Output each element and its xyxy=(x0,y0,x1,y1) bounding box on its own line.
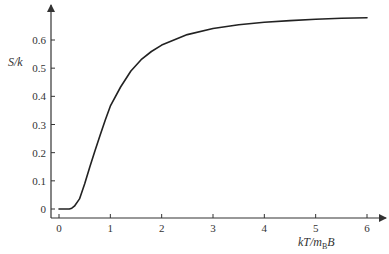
x-axis-label: kT/mBB xyxy=(298,235,335,251)
entropy-curve xyxy=(59,18,367,209)
y-tick-label: 0.3 xyxy=(32,119,46,131)
y-tick-label: 0.6 xyxy=(32,34,46,46)
x-tick-label: 6 xyxy=(364,222,370,234)
entropy-chart: 00.10.20.30.40.50.6 0123456 S/k kT/mBB xyxy=(0,0,389,254)
y-axis-label: S/k xyxy=(8,55,23,69)
y-tick-label: 0.2 xyxy=(32,147,46,159)
x-tick-label: 2 xyxy=(159,222,165,234)
y-tick-label: 0.1 xyxy=(32,175,46,187)
y-tick-label: 0.5 xyxy=(32,62,46,74)
x-tick-label: 5 xyxy=(313,222,319,234)
y-tick-label: 0 xyxy=(41,203,47,215)
x-tick-label: 4 xyxy=(262,222,268,234)
y-tick-label: 0.4 xyxy=(32,90,46,102)
x-tick-label: 1 xyxy=(108,222,114,234)
x-axis-label-post: B xyxy=(327,235,335,249)
x-tick-label: 3 xyxy=(210,222,216,234)
x-tick-label: 0 xyxy=(56,222,62,234)
x-axis-label-pre: kT/m xyxy=(298,235,322,249)
x-axis-ticks: 0123456 xyxy=(56,214,370,234)
